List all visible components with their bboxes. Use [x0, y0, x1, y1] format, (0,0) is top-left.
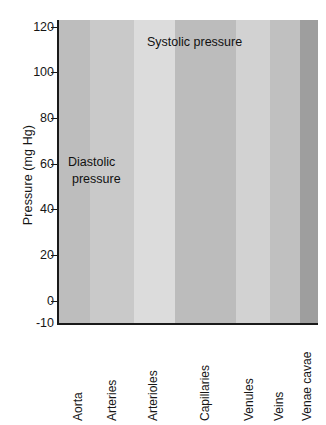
x-label-arterioles: Arterioles — [146, 370, 160, 421]
band-veins — [270, 20, 300, 323]
y-tick-80: 80 — [20, 112, 54, 125]
tickmark-80 — [51, 118, 59, 119]
annotation-systolic-pressure: Systolic pressure — [147, 35, 242, 49]
tickmark-40 — [51, 209, 59, 210]
tickmark-20 — [51, 255, 59, 256]
band-arterioles — [134, 20, 175, 323]
y-tick-100: 100 — [20, 66, 54, 79]
annotation-diastolic-line2: pressure — [72, 172, 121, 186]
annotation-diastolic-line1: Diastolic — [68, 155, 115, 169]
x-label-aorta: Aorta — [71, 392, 85, 421]
tickmark-120 — [51, 27, 59, 28]
y-tick-marks — [50, 20, 59, 323]
band-venules — [236, 20, 270, 323]
blood-pressure-figure: Pressure (mg Hg) 120 100 80 60 40 20 0 -… — [0, 0, 326, 425]
plot-area: Systolic pressure Diastolic pressure — [57, 20, 318, 325]
y-axis-tick-labels: 120 100 80 60 40 20 0 -10 — [18, 0, 54, 425]
y-tick-neg10: -10 — [20, 317, 54, 330]
x-label-capillaries: Capillaries — [198, 365, 212, 421]
x-axis-tick-labels: Aorta Arteries Arterioles Capillaries Ve… — [57, 323, 316, 425]
y-tick-20: 20 — [20, 249, 54, 262]
tickmark-60 — [51, 164, 59, 165]
tickmark-100 — [51, 72, 59, 73]
y-tick-40: 40 — [20, 203, 54, 216]
y-tick-120: 120 — [20, 21, 54, 34]
tickmark-0 — [51, 301, 59, 302]
y-tick-60: 60 — [20, 158, 54, 171]
band-capillaries — [175, 20, 236, 323]
x-label-arteries: Arteries — [105, 380, 119, 421]
x-label-veins: Veins — [272, 392, 286, 421]
band-venae-cavae — [300, 20, 318, 323]
y-tick-0: 0 — [20, 295, 54, 308]
x-label-venae-cavae: Venae cavae — [300, 352, 314, 421]
x-label-venules: Venules — [242, 378, 256, 421]
